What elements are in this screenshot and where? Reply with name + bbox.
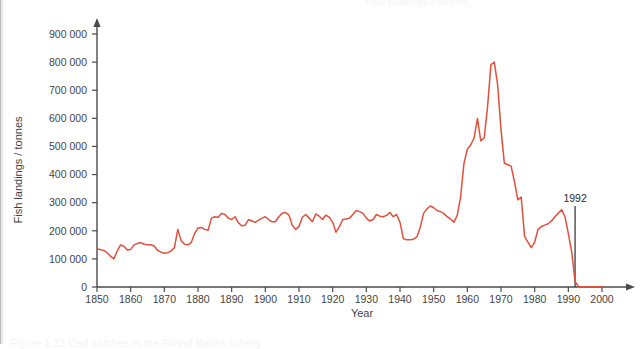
x-axis-ticks: 1850186018701880189019001910192019301940… — [85, 287, 614, 305]
y-tick-label: 700 000 — [49, 84, 87, 96]
y-tick-label: 500 000 — [49, 140, 87, 152]
y-axis-ticks: 0100 000200 000300 000400 000500 000600 … — [49, 28, 97, 293]
x-tick-label: 1980 — [523, 293, 547, 305]
x-tick-label: 1860 — [119, 293, 143, 305]
x-tick-label: 1930 — [355, 293, 379, 305]
x-tick-label: 1950 — [422, 293, 446, 305]
y-tick-label: 0 — [81, 281, 87, 293]
y-tick-label: 900 000 — [49, 28, 87, 40]
x-tick-label: 1890 — [220, 293, 244, 305]
x-tick-label: 1920 — [321, 293, 345, 305]
x-tick-label: 2000 — [590, 293, 614, 305]
y-tick-label: 400 000 — [49, 168, 87, 180]
x-tick-label: 1900 — [254, 293, 278, 305]
y-tick-label: 300 000 — [49, 196, 87, 208]
x-tick-label: 1970 — [489, 293, 513, 305]
series-group — [97, 62, 602, 287]
x-tick-label: 1870 — [153, 293, 177, 305]
annotation-label: 1992 — [563, 192, 587, 204]
y-axis-title: Fish landings / tonnes — [12, 116, 24, 224]
data-series-line — [97, 62, 602, 287]
y-tick-label: 600 000 — [49, 112, 87, 124]
x-tick-label: 1990 — [557, 293, 581, 305]
x-tick-label: 1850 — [85, 293, 109, 305]
annotation-group: 1992 — [563, 192, 587, 287]
y-tick-label: 800 000 — [49, 56, 87, 68]
x-tick-label: 1880 — [186, 293, 210, 305]
x-tick-label: 1960 — [456, 293, 480, 305]
y-axis-line — [93, 18, 100, 287]
y-tick-label: 100 000 — [49, 253, 87, 265]
x-axis-title: Year — [351, 307, 374, 319]
y-tick-label: 200 000 — [49, 225, 87, 237]
x-tick-label: 1940 — [388, 293, 412, 305]
x-tick-label: 1910 — [287, 293, 311, 305]
